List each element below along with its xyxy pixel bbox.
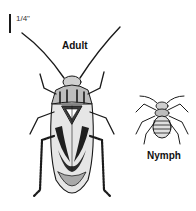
nymph-bug-icon [136,96,188,144]
adult-bug-icon [22,27,120,196]
insect-illustration [0,0,196,211]
